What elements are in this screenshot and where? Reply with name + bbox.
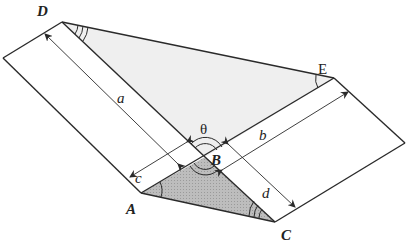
label-dimension-d: d (262, 186, 270, 201)
label-point-b: B (211, 153, 221, 168)
label-point-c: C (281, 228, 291, 243)
label-theta: θ (200, 122, 207, 137)
label-point-a: A (126, 202, 136, 217)
geometry-diagram: D E θ B A C a b c d (0, 0, 409, 249)
label-point-d: D (37, 4, 48, 19)
label-point-e: E (318, 62, 327, 77)
label-dimension-a: a (117, 91, 125, 106)
label-dimension-b: b (259, 128, 267, 143)
triangle-dbe-shade (62, 22, 334, 157)
label-dimension-c: c (135, 171, 142, 186)
